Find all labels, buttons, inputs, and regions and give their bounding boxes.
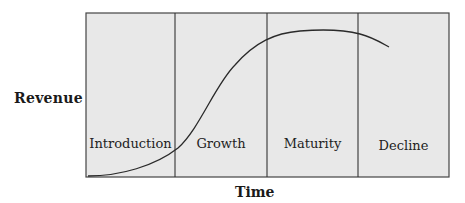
stage-label-introduction: Introduction (86, 136, 175, 151)
life-cycle-diagram (0, 0, 465, 203)
stage-label-maturity: Maturity (267, 136, 358, 151)
stage-label-growth: Growth (175, 136, 267, 151)
stage-label-decline: Decline (358, 138, 449, 153)
x-axis-label: Time (235, 184, 274, 200)
